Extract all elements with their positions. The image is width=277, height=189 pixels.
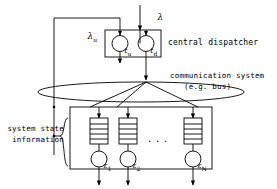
queue-box-2: [119, 118, 137, 144]
central-dispatcher-label: central dispatcher: [168, 38, 258, 47]
timer-d-label: td: [140, 37, 157, 67]
server-label-n: εN: [188, 153, 207, 181]
system-state-label-line2: information: [2, 136, 64, 145]
communication-system-label-line2: (e.g. bus): [184, 83, 231, 92]
riser-dot: [53, 106, 56, 109]
bus-fanout-middle: [117, 82, 146, 107]
timer-u-label: tu: [114, 37, 131, 67]
lambda-arrival-label: λ: [146, 2, 163, 33]
queue-box-n: [184, 118, 202, 144]
queue-ellipsis: ...: [147, 134, 171, 144]
communication-system-label-line1: communication system: [170, 72, 264, 81]
system-state-label-line1: system state: [2, 125, 64, 134]
lambda-update-label: λu: [76, 21, 97, 54]
bus-fanout-left: [90, 82, 146, 107]
diagram-canvas: λ λu tu td central dispatcher communicat…: [0, 0, 277, 189]
queue-box-1: [90, 118, 108, 144]
server-label-2: ε2: [123, 153, 140, 181]
server-label-1: ε1: [94, 153, 111, 181]
